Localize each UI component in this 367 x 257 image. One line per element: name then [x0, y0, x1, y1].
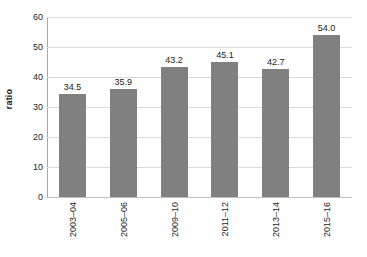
y-axis-tick-label: 60 — [3, 12, 43, 22]
y-axis-tick-label: 30 — [3, 102, 43, 112]
gridline — [47, 107, 352, 108]
x-axis-tick-label: 2011–12 — [203, 200, 247, 255]
bar[interactable] — [161, 67, 188, 197]
bar-value-label: 45.1 — [216, 50, 234, 60]
x-axis-tick-label-text: 2015–16 — [322, 202, 332, 237]
bar[interactable] — [313, 35, 340, 197]
gridline — [47, 17, 352, 18]
bar[interactable] — [110, 89, 137, 197]
x-axis-tick-label: 2009–10 — [152, 200, 196, 255]
y-axis-tick-labels: 0102030405060 — [0, 17, 43, 197]
y-axis-tick-label: 40 — [3, 72, 43, 82]
plot-area: 34.535.943.245.142.754.0 — [47, 17, 352, 197]
bar-value-label: 54.0 — [318, 23, 336, 33]
y-axis-tick-label: 10 — [3, 162, 43, 172]
x-axis-tick-label-text: 2003–04 — [68, 202, 78, 237]
y-axis-tick-label: 0 — [3, 192, 43, 202]
x-axis-tick-label: 2015–16 — [305, 200, 349, 255]
bar[interactable] — [262, 69, 289, 197]
bar-chart: ratio 0102030405060 34.535.943.245.142.7… — [0, 0, 367, 257]
bar-value-label: 43.2 — [165, 55, 183, 65]
bar-value-label: 34.5 — [64, 82, 82, 92]
x-axis-tick-label: 2005–06 — [101, 200, 145, 255]
bar[interactable] — [211, 62, 238, 197]
gridline — [47, 77, 352, 78]
x-axis-tick-label: 2013–14 — [254, 200, 298, 255]
x-axis-tick-label-text: 2009–10 — [170, 202, 180, 237]
x-axis-tick-label-text: 2013–14 — [271, 202, 281, 237]
bar-value-label: 42.7 — [267, 57, 285, 67]
gridline — [47, 167, 352, 168]
y-axis-tick-label: 20 — [3, 132, 43, 142]
gridline — [47, 197, 352, 198]
bar-value-label: 35.9 — [114, 77, 132, 87]
bar[interactable] — [59, 94, 86, 198]
gridline — [47, 137, 352, 138]
gridline — [47, 47, 352, 48]
x-axis-tick-labels: 2003–042005–062009–102011–122013–142015–… — [47, 200, 352, 257]
x-axis-tick-label-text: 2011–12 — [220, 202, 230, 236]
x-axis-tick-label: 2003–04 — [50, 200, 94, 255]
y-axis-tick-label: 50 — [3, 42, 43, 52]
x-axis-tick-label-text: 2005–06 — [119, 202, 129, 237]
